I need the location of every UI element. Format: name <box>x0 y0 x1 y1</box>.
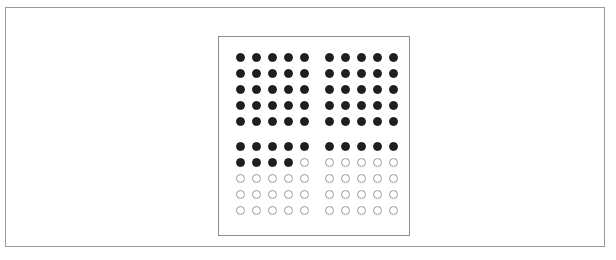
dot-cell <box>280 97 296 113</box>
dot-cell <box>337 113 353 129</box>
dot-cell <box>232 49 248 65</box>
dot-cell <box>248 81 264 97</box>
dot-cell <box>353 138 369 154</box>
dot-filled-icon <box>300 117 309 126</box>
dot-cell <box>296 170 312 186</box>
dot-cell <box>385 81 401 97</box>
dot-cell <box>337 138 353 154</box>
dot-empty-icon <box>373 174 382 183</box>
dot-cell <box>385 154 401 170</box>
dot-column-group <box>232 202 312 218</box>
dot-matrix-panel <box>218 36 410 236</box>
dot-cell <box>337 65 353 81</box>
dot-filled-icon <box>373 69 382 78</box>
dot-filled-icon <box>389 142 398 151</box>
dot-cell <box>280 65 296 81</box>
dot-filled-icon <box>325 85 334 94</box>
dot-empty-icon <box>373 190 382 199</box>
dot-cell <box>296 81 312 97</box>
dot-empty-icon <box>357 174 366 183</box>
dot-filled-icon <box>236 117 245 126</box>
dot-filled-icon <box>252 85 261 94</box>
dot-filled-icon <box>389 101 398 110</box>
dot-cell <box>296 97 312 113</box>
dot-cell <box>337 49 353 65</box>
dot-cell <box>337 81 353 97</box>
dot-filled-icon <box>357 101 366 110</box>
dot-filled-icon <box>389 85 398 94</box>
dot-cell <box>264 186 280 202</box>
dot-filled-icon <box>284 69 293 78</box>
dot-filled-icon <box>357 142 366 151</box>
dot-column-group <box>232 170 312 186</box>
dot-filled-icon <box>325 53 334 62</box>
dot-empty-icon <box>252 174 261 183</box>
dot-cell <box>296 202 312 218</box>
dot-column-group <box>321 97 401 113</box>
dot-cell <box>296 113 312 129</box>
dot-cell <box>248 170 264 186</box>
dot-cell <box>385 186 401 202</box>
dot-row-group <box>232 138 401 218</box>
dot-empty-icon <box>325 190 334 199</box>
dot-row <box>232 170 401 186</box>
dot-cell <box>280 154 296 170</box>
dot-cell <box>353 113 369 129</box>
dot-filled-icon <box>341 85 350 94</box>
dot-cell <box>337 97 353 113</box>
dot-filled-icon <box>325 142 334 151</box>
dot-filled-icon <box>357 85 366 94</box>
dot-filled-icon <box>389 53 398 62</box>
dot-filled-icon <box>252 117 261 126</box>
dot-cell <box>321 138 337 154</box>
dot-column-group <box>232 65 312 81</box>
dot-filled-icon <box>300 69 309 78</box>
dot-column-group <box>321 113 401 129</box>
dot-filled-icon <box>268 142 277 151</box>
dot-empty-icon <box>373 206 382 215</box>
dot-cell <box>369 202 385 218</box>
dot-column-group <box>321 65 401 81</box>
dot-filled-icon <box>357 53 366 62</box>
dot-filled-icon <box>325 69 334 78</box>
dot-cell <box>353 154 369 170</box>
dot-empty-icon <box>236 174 245 183</box>
dot-filled-icon <box>284 142 293 151</box>
dot-column-group <box>232 97 312 113</box>
dot-cell <box>385 113 401 129</box>
dot-column-group <box>321 202 401 218</box>
dot-empty-icon <box>341 174 350 183</box>
dot-filled-icon <box>373 142 382 151</box>
dot-filled-icon <box>268 101 277 110</box>
dot-empty-icon <box>325 158 334 167</box>
dot-column-group <box>321 49 401 65</box>
dot-cell <box>264 170 280 186</box>
dot-filled-icon <box>252 158 261 167</box>
dot-filled-icon <box>236 142 245 151</box>
dot-empty-icon <box>389 158 398 167</box>
dot-cell <box>353 170 369 186</box>
dot-cell <box>353 202 369 218</box>
dot-cell <box>385 138 401 154</box>
dot-cell <box>280 202 296 218</box>
dot-cell <box>321 186 337 202</box>
dot-cell <box>385 97 401 113</box>
dot-row <box>232 65 401 81</box>
dot-filled-icon <box>373 101 382 110</box>
dot-cell <box>353 186 369 202</box>
dot-cell <box>248 138 264 154</box>
dot-cell <box>232 154 248 170</box>
dot-column-group <box>321 154 401 170</box>
dot-cell <box>280 113 296 129</box>
dot-filled-icon <box>341 117 350 126</box>
dot-filled-icon <box>236 85 245 94</box>
dot-cell <box>385 49 401 65</box>
dot-filled-icon <box>389 117 398 126</box>
dot-empty-icon <box>252 206 261 215</box>
dot-cell <box>353 65 369 81</box>
dot-empty-icon <box>325 174 334 183</box>
dot-empty-icon <box>300 174 309 183</box>
page-frame <box>5 7 605 247</box>
dot-cell <box>321 49 337 65</box>
dot-cell <box>264 65 280 81</box>
